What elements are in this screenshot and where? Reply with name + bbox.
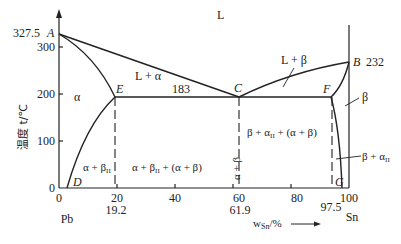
y-tick-200: 200 [37, 87, 55, 101]
region-l-alpha: L + α [135, 69, 162, 83]
point-g: G [335, 175, 344, 189]
x-tick-0: 0 [56, 191, 62, 205]
region-l: L [217, 8, 224, 22]
point-b-temp: 232 [366, 55, 384, 69]
y-tick-327-5: 327.5 [13, 26, 40, 40]
y-axis-arrow-icon [56, 9, 62, 18]
region-beta-alpha-ii: β + αII [362, 150, 390, 164]
region-l-beta: L + β [281, 53, 307, 67]
x-tick-19-2: 19.2 [106, 203, 127, 217]
x-tick-100: 100 [340, 191, 358, 205]
point-a: A [46, 26, 55, 40]
region-alpha-beta-ii: α + βII [83, 161, 111, 175]
point-e: E [115, 82, 124, 96]
x-axis-arrow-icon [314, 222, 321, 227]
x-tick-40: 40 [169, 191, 181, 205]
region-eutectic: α + β [230, 157, 242, 180]
point-d: D [72, 175, 82, 189]
x-tick-61-9: 61.9 [230, 203, 251, 217]
eutectic-temp: 183 [172, 82, 190, 96]
element-sn: Sn [346, 210, 359, 224]
region-beta: β [362, 90, 368, 104]
region-hypereutectic: β + αII + (α + β) [247, 126, 317, 140]
element-pb: Pb [61, 212, 74, 226]
liquidus-ac [59, 34, 239, 97]
svg-text:wSn/%: wSn/% [253, 217, 282, 231]
x-axis-label: wSn/% [253, 217, 321, 231]
liquidus-cb [239, 62, 349, 97]
y-tick-0: 0 [49, 181, 55, 195]
x-tick-80: 80 [291, 191, 303, 205]
point-c: C [234, 81, 243, 95]
solidus-bf [331, 62, 349, 97]
y-tick-300: 300 [37, 40, 55, 54]
x-tick-97-5: 97.5 [321, 200, 342, 214]
leader-beta [345, 98, 359, 106]
region-hypoeutectic: α + βII + (α + β) [132, 161, 202, 175]
y-axis-label: 温度 t/℃ [16, 104, 30, 150]
y-tick-100: 100 [37, 134, 55, 148]
region-alpha: α [74, 90, 81, 104]
phase-diagram: 0 100 200 300 327.5 温度 t/℃ 0 20 40 60 80… [0, 0, 401, 244]
point-f: F [322, 82, 331, 96]
point-b: B [353, 55, 361, 69]
